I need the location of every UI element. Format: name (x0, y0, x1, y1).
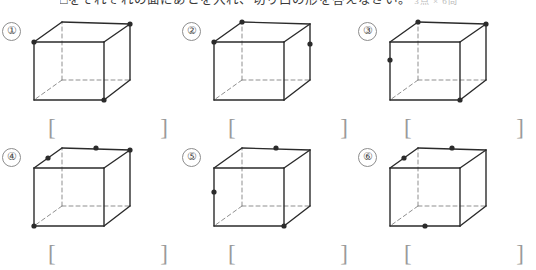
cube-drawing (26, 16, 146, 112)
answer-bracket-left: [ (228, 116, 236, 140)
cube-6 (382, 142, 502, 238)
answer-field-5[interactable]: [] (228, 242, 348, 268)
answer-bracket-left: [ (228, 242, 236, 266)
dot-back-top-right (483, 21, 488, 26)
dot-front-top-left (31, 39, 36, 44)
dot-front-bottom-left (31, 223, 36, 228)
answer-field-1[interactable]: [] (48, 116, 168, 142)
cube-drawing (206, 16, 326, 112)
cube-drawing (206, 142, 326, 238)
cube-5 (206, 142, 326, 238)
answer-bracket-right: ] (516, 116, 524, 140)
problem-number-4: ④ (2, 148, 21, 167)
problem-number-6: ⑥ (358, 148, 377, 167)
answer-bracket-right: ] (516, 242, 524, 266)
dot-front-left-edge-mid (387, 57, 392, 62)
dot-front-left-edge-mid (211, 189, 216, 194)
dot-front-right-edge-mid (307, 41, 312, 46)
dot-back-top-edge-mid (449, 145, 454, 150)
cube-4 (26, 142, 146, 238)
answer-field-3[interactable]: [] (404, 116, 524, 142)
instruction-points-note: 3点 × 6問 (414, 0, 458, 6)
dot-front-top-left (211, 39, 216, 44)
dot-back-top-edge-mid (93, 145, 98, 150)
problem-number-3: ③ (358, 22, 377, 41)
dot-front-bottom-right (457, 97, 462, 102)
answer-bracket-right: ] (160, 242, 168, 266)
answer-field-6[interactable]: [] (404, 242, 524, 268)
dot-top-left-diagonal (45, 155, 50, 160)
answer-bracket-right: ] (340, 242, 348, 266)
answer-bracket-right: ] (340, 116, 348, 140)
answer-bracket-left: [ (48, 242, 56, 266)
dot-back-top-edge-mid (273, 145, 278, 150)
cube-drawing (382, 16, 502, 112)
dot-front-bottom-edge-mid (422, 223, 427, 228)
answer-field-2[interactable]: [] (228, 116, 348, 142)
problem-3: ③[] (356, 16, 534, 144)
dot-front-bottom-right (281, 223, 286, 228)
cube-1 (26, 16, 146, 112)
instruction-label: □をそれぞれの面にあとを入れ、切り口の形を答えなさい。 (60, 0, 411, 7)
dot-front-bottom-right (101, 97, 106, 102)
answer-bracket-left: [ (48, 116, 56, 140)
instruction-text: □をそれぞれの面にあとを入れ、切り口の形を答えなさい。 3点 × 6問 (60, 0, 530, 8)
problem-4: ④[] (0, 142, 178, 270)
answer-field-4[interactable]: [] (48, 242, 168, 268)
cube-3 (382, 16, 502, 112)
problem-2: ②[] (180, 16, 358, 144)
dot-top-left-diagonal (401, 155, 406, 160)
cube-drawing (26, 142, 146, 238)
problem-number-5: ⑤ (182, 148, 201, 167)
problem-5: ⑤[] (180, 142, 358, 270)
answer-bracket-right: ] (160, 116, 168, 140)
cube-drawing (382, 142, 502, 238)
dot-back-top-left (239, 19, 244, 24)
problem-number-2: ② (182, 22, 201, 41)
answer-bracket-left: [ (404, 242, 412, 266)
problem-number-1: ① (2, 22, 21, 41)
dot-back-top-right (127, 147, 132, 152)
dot-back-top-right (127, 21, 132, 26)
answer-bracket-left: [ (404, 116, 412, 140)
dot-back-top-left (415, 19, 420, 24)
problem-1: ①[] (0, 16, 178, 144)
cube-2 (206, 16, 326, 112)
problem-6: ⑥[] (356, 142, 534, 270)
